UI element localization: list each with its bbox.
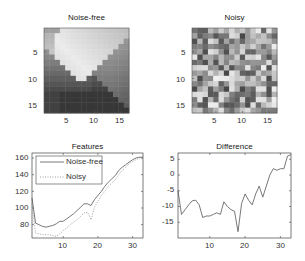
y-tick: 80 xyxy=(20,220,29,229)
x-tick: 10 xyxy=(58,241,67,250)
y-tick: 120 xyxy=(15,187,28,196)
x-tick: 5 xyxy=(64,116,68,125)
noise-free-panel: Noise-free 5 10 15 5 10 15 xyxy=(0,0,152,130)
y-tick: 15 xyxy=(28,101,37,110)
features-panel: Features 160 140 120 100 80 10 20 30 Noi… xyxy=(0,130,152,261)
y-tick: 5 xyxy=(33,48,37,57)
x-tick: 30 xyxy=(276,241,285,250)
x-tick: 10 xyxy=(205,241,214,250)
y-tick: 0 xyxy=(170,169,174,178)
difference-panel: Difference 5 0 -5 -10 -15 10 20 30 xyxy=(152,130,305,261)
y-tick: 5 xyxy=(170,154,174,163)
y-tick: -10 xyxy=(162,201,174,210)
y-tick: 100 xyxy=(15,203,28,212)
x-tick: 5 xyxy=(212,116,216,125)
legend-label-noisy: Noisy xyxy=(66,172,86,181)
noise-free-heatmap xyxy=(0,0,152,130)
y-tick: 10 xyxy=(176,75,185,84)
y-tick: 160 xyxy=(15,153,28,162)
y-tick: -15 xyxy=(162,217,174,226)
x-tick: 20 xyxy=(240,241,249,250)
x-tick: 15 xyxy=(263,116,272,125)
noisy-heatmap xyxy=(152,0,305,130)
y-tick: -5 xyxy=(167,185,174,194)
x-tick: 10 xyxy=(89,116,98,125)
y-tick: 140 xyxy=(15,170,28,179)
x-tick: 10 xyxy=(237,116,246,125)
x-tick: 15 xyxy=(115,116,124,125)
x-tick: 30 xyxy=(128,241,137,250)
y-tick: 5 xyxy=(181,48,185,57)
y-tick: 10 xyxy=(28,75,37,84)
legend-label-noise-free: Noise-free xyxy=(66,157,103,166)
x-tick: 20 xyxy=(93,241,102,250)
y-tick: 15 xyxy=(176,101,185,110)
noisy-panel: Noisy 5 10 15 5 10 15 xyxy=(152,0,305,130)
